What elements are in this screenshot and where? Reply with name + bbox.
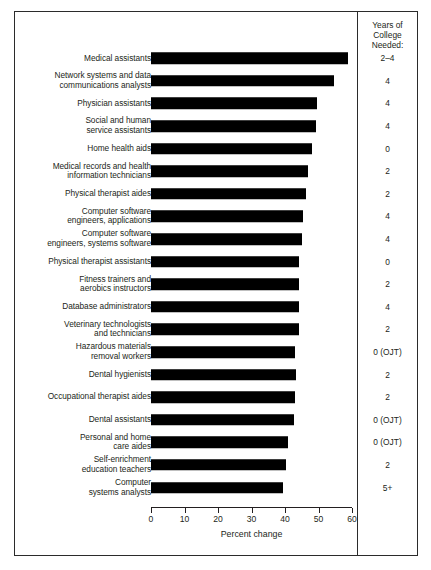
bar-row: Occupational therapist aides xyxy=(14,386,357,409)
x-axis-tick-label: 20 xyxy=(213,514,223,524)
x-axis-tick xyxy=(151,508,152,513)
x-axis-tick-label: 60 xyxy=(347,514,357,524)
years-of-college-value: 4 xyxy=(357,205,418,228)
x-axis-tick-label: 0 xyxy=(149,514,154,524)
x-axis-tick-label: 50 xyxy=(314,514,324,524)
bar-row: Physical therapist aides xyxy=(14,183,357,206)
x-axis-tick xyxy=(252,508,253,513)
bar xyxy=(151,301,299,313)
x-axis: 0102030405060 xyxy=(151,507,352,508)
bar xyxy=(151,120,316,132)
bar xyxy=(151,437,288,449)
bar-track xyxy=(151,98,353,110)
x-axis-tick-label: 30 xyxy=(247,514,257,524)
bar-track xyxy=(151,188,353,200)
bar-track xyxy=(151,166,353,178)
bar-row: Home health aids xyxy=(14,137,357,160)
years-of-college-value: 0 (OJT) xyxy=(357,341,418,364)
category-label: Database administrators xyxy=(23,302,151,312)
bar-row: Personal and home care aides xyxy=(14,431,357,454)
bar xyxy=(151,278,299,290)
category-label: Physical therapist aides xyxy=(23,189,151,199)
category-label: Fitness trainers and aerobics instructor… xyxy=(23,275,151,294)
bar xyxy=(151,53,348,65)
bar-track xyxy=(151,301,353,313)
x-axis-tick xyxy=(319,508,320,513)
bar-row: Dental assistants xyxy=(14,409,357,432)
years-of-college-value: 2 xyxy=(357,160,418,183)
bar-row: Database administrators xyxy=(14,296,357,319)
bar xyxy=(151,166,308,178)
years-of-college-value: 0 xyxy=(357,137,418,160)
category-label: Personal and home care aides xyxy=(23,433,151,452)
bar-track xyxy=(151,414,353,426)
bar-track xyxy=(151,75,353,87)
bar xyxy=(151,391,295,403)
bar xyxy=(151,346,295,358)
years-of-college-column: Years of College Needed: 2–4444022440242… xyxy=(357,11,418,556)
bar-row: Network systems and data communications … xyxy=(14,70,357,93)
bar-track xyxy=(151,346,353,358)
bar-track xyxy=(151,233,353,245)
category-label: Medical records and health information t… xyxy=(23,162,151,181)
bar-track xyxy=(151,278,353,290)
bar-row: Fitness trainers and aerobics instructor… xyxy=(14,273,357,296)
bar-row: Medical records and health information t… xyxy=(14,160,357,183)
bar-row: Dental hygienists xyxy=(14,363,357,386)
x-axis-tick xyxy=(352,508,353,513)
bar-row: Hazardous materials removal workers xyxy=(14,341,357,364)
x-axis-tick xyxy=(285,508,286,513)
x-axis-tick-label: 10 xyxy=(180,514,190,524)
bar-track xyxy=(151,459,353,471)
bar-row: Physical therapist assistants xyxy=(14,250,357,273)
category-label: Network systems and data communications … xyxy=(23,71,151,90)
bar-row: Computer systems analysts xyxy=(14,476,357,499)
years-of-college-value: 2 xyxy=(357,363,418,386)
years-of-college-value: 4 xyxy=(357,70,418,93)
category-label: Veterinary technologists and technicians xyxy=(23,320,151,339)
bar-track xyxy=(151,256,353,268)
category-label: Computer software engineers, systems sof… xyxy=(23,229,151,248)
bar xyxy=(151,369,296,381)
bar-track xyxy=(151,324,353,336)
bar xyxy=(151,188,306,200)
years-of-college-value: 5+ xyxy=(357,476,418,499)
years-of-college-value: 4 xyxy=(357,296,418,319)
x-axis-tick-label: 40 xyxy=(280,514,290,524)
x-axis-title: Percent change xyxy=(151,529,352,539)
bar-track xyxy=(151,437,353,449)
category-label: Hazardous materials removal workers xyxy=(23,342,151,361)
years-of-college-value: 2 xyxy=(357,318,418,341)
bar xyxy=(151,256,299,268)
bar-row: Veterinary technologists and technicians xyxy=(14,318,357,341)
bar-track xyxy=(151,120,353,132)
category-label: Physical therapist assistants xyxy=(23,257,151,267)
x-axis-tick xyxy=(185,508,186,513)
years-of-college-value: 0 (OJT) xyxy=(357,431,418,454)
category-label: Computer software engineers, application… xyxy=(23,207,151,226)
bar xyxy=(151,98,317,110)
years-of-college-value: 2 xyxy=(357,386,418,409)
bar-row: Computer software engineers, systems sof… xyxy=(14,228,357,251)
bar-row: Computer software engineers, application… xyxy=(14,205,357,228)
bar-track xyxy=(151,143,353,155)
category-label: Medical assistants xyxy=(23,54,151,64)
bar xyxy=(151,324,299,336)
bar xyxy=(151,75,334,87)
x-axis-tick xyxy=(218,508,219,513)
years-of-college-value: 2 xyxy=(357,183,418,206)
bar-row: Medical assistants xyxy=(14,47,357,70)
bar-row: Self-enrichment education teachers xyxy=(14,454,357,477)
category-label: Computer systems analysts xyxy=(23,478,151,497)
bar-row: Social and human service assistants xyxy=(14,115,357,138)
years-of-college-value: 0 (OJT) xyxy=(357,409,418,432)
category-label: Self-enrichment education teachers xyxy=(23,455,151,474)
bar-track xyxy=(151,369,353,381)
category-label: Occupational therapist aides xyxy=(23,392,151,402)
bar-row: Physician assistants xyxy=(14,92,357,115)
years-of-college-value: 4 xyxy=(357,92,418,115)
category-label: Home health aids xyxy=(23,144,151,154)
years-of-college-value: 4 xyxy=(357,228,418,251)
years-of-college-value: 2 xyxy=(357,273,418,296)
years-of-college-value: 2 xyxy=(357,454,418,477)
